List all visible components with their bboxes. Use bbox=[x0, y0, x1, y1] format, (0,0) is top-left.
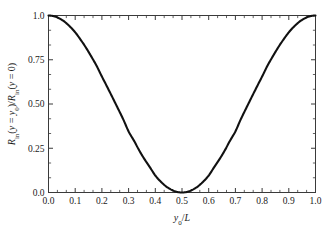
minor-tick-marks bbox=[49, 16, 316, 193]
x-tick-label: 0.9 bbox=[283, 196, 295, 206]
x-tick-labels: 0.00.10.20.30.40.50.60.70.80.91.0 bbox=[43, 196, 322, 206]
svg-text:Rin(y = y0)/Rin(y = 0): Rin(y = y0)/Rin(y = 0) bbox=[6, 63, 21, 146]
y-tick-label: 0.0 bbox=[33, 188, 45, 198]
y-tick-labels: 0.00.250.500.751.0 bbox=[28, 11, 45, 198]
y-tick-label: 0.50 bbox=[28, 99, 45, 109]
x-tick-label: 0.4 bbox=[149, 196, 161, 206]
y-tick-label: 0.75 bbox=[28, 55, 45, 65]
x-tick-label: 1.0 bbox=[310, 196, 322, 206]
x-tick-label: 0.7 bbox=[229, 196, 241, 206]
plot-canvas: 0.00.10.20.30.40.50.60.70.80.91.0 0.00.2… bbox=[0, 0, 330, 237]
x-tick-label: 0.6 bbox=[203, 196, 215, 206]
major-tick-marks bbox=[49, 16, 316, 193]
x-axis-title: y0/L bbox=[173, 212, 191, 227]
y-tick-label: 1.0 bbox=[33, 11, 45, 21]
chart-figure: 0.00.10.20.30.40.50.60.70.80.91.0 0.00.2… bbox=[0, 0, 330, 237]
y-axis-title: Rin(y = y0)/Rin(y = 0) bbox=[6, 63, 21, 146]
x-tick-label: 0.1 bbox=[69, 196, 81, 206]
x-tick-label: 0.2 bbox=[96, 196, 108, 206]
data-series-line bbox=[49, 16, 316, 193]
y-tick-label: 0.25 bbox=[28, 144, 45, 154]
x-tick-label: 0.8 bbox=[256, 196, 268, 206]
plot-frame bbox=[49, 16, 316, 193]
x-tick-label: 0.5 bbox=[176, 196, 188, 206]
x-tick-label: 0.3 bbox=[123, 196, 135, 206]
